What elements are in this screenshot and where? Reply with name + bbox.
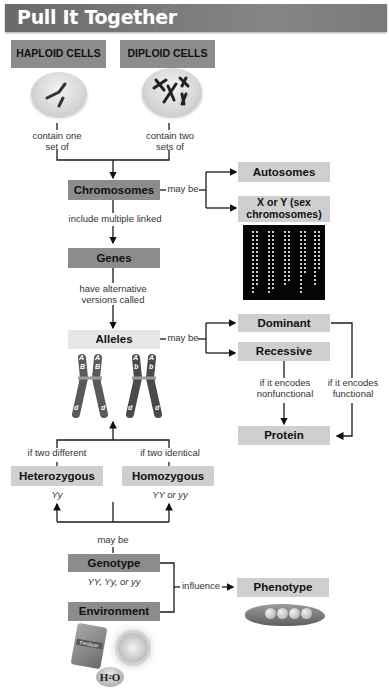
alleles-may-be-label: may be — [166, 333, 200, 344]
pea-icon — [301, 608, 312, 619]
recessive-label: Recessive — [256, 345, 312, 358]
diploid-relation-label: contain two sets of — [138, 131, 202, 153]
allele-tag: A — [149, 354, 154, 361]
haploid-cells-box: HAPLOID CELLS — [11, 40, 106, 68]
sun-icon — [118, 633, 148, 663]
allele-tag: B — [80, 363, 85, 370]
allele-tag: b — [134, 363, 138, 370]
phenotype-box: Phenotype — [237, 578, 329, 597]
include-linked-label: include multiple linked — [55, 214, 175, 225]
allele-tag: d — [155, 404, 159, 411]
water-o: O — [112, 671, 121, 683]
autosomes-box: Autosomes — [238, 162, 330, 182]
chromosomes-may-be-label: may be — [166, 184, 200, 195]
diploid-cell-dish-icon — [142, 68, 202, 116]
diploid-cells-label: DIPLOID CELLS — [128, 48, 208, 60]
water-h: H — [100, 671, 109, 683]
genes-label: Genes — [96, 252, 131, 265]
pea-icon — [265, 608, 276, 619]
protein-label: Protein — [264, 429, 304, 442]
heterozygous-chromosome-image: A A B B d d — [68, 352, 112, 420]
alleles-label: Alleles — [95, 333, 132, 346]
pea-icon — [277, 608, 288, 619]
karyotype-image — [243, 225, 325, 300]
zygosity-may-be-label: may be — [95, 535, 131, 546]
influence-label: influence — [180, 581, 222, 592]
genotype-examples: YY, Yy, or yy — [68, 577, 160, 588]
chromosomes-label: Chromosomes — [74, 184, 155, 197]
protein-box: Protein — [238, 426, 330, 445]
homozygous-chromosome-image: A A b b d d — [122, 352, 166, 420]
allele-tag: B — [95, 363, 100, 370]
allele-tag: A — [133, 354, 138, 361]
allele-tag: d — [101, 404, 105, 411]
fertilizer-bag-icon: Fertilizer — [71, 623, 108, 670]
dominant-box: Dominant — [238, 314, 330, 332]
autosomes-label: Autosomes — [253, 166, 316, 179]
genotype-label: Genotype — [87, 557, 140, 570]
homozygous-example: YY or yy — [140, 490, 200, 501]
genes-box: Genes — [68, 248, 160, 268]
genotype-box: Genotype — [68, 554, 160, 572]
homozygous-condition-label: if two identical — [132, 448, 208, 459]
water-icon: H2O — [96, 667, 124, 687]
genes-relation-text: have alternative versions called — [79, 283, 146, 305]
diploid-cells-box: DIPLOID CELLS — [120, 40, 215, 68]
allele-tag: A — [95, 354, 100, 361]
chromosomes-box: Chromosomes — [68, 180, 160, 200]
environment-box: Environment — [68, 602, 160, 621]
recessive-box: Recessive — [238, 342, 330, 361]
allele-tag: d — [128, 404, 132, 411]
sex-chromosomes-box: X or Y (sex chromosomes) — [238, 196, 330, 222]
functional-relation-label: if it encodes functional — [326, 378, 380, 400]
environment-label: Environment — [79, 605, 149, 618]
dominant-label: Dominant — [257, 317, 310, 330]
allele-tag: d — [74, 404, 78, 411]
heterozygous-example: Yy — [37, 490, 77, 501]
alleles-box: Alleles — [68, 330, 160, 349]
haploid-cells-label: HAPLOID CELLS — [16, 48, 101, 60]
nonfunctional-relation-label: if it encodes nonfunctional — [255, 378, 315, 400]
genes-relation-label: have alternative versions called — [70, 284, 156, 306]
heterozygous-label: Heterozygous — [19, 470, 95, 483]
heterozygous-condition-label: if two different — [18, 448, 96, 459]
phenotype-label: Phenotype — [254, 581, 313, 594]
allele-tag: b — [149, 363, 153, 370]
fertilizer-label: Fertilizer — [76, 639, 103, 649]
haploid-relation-label: contain one set of — [25, 131, 89, 153]
title-banner: Pull It Together — [5, 4, 387, 32]
heterozygous-box: Heterozygous — [11, 466, 103, 486]
homozygous-label: Homozygous — [132, 470, 204, 483]
pea-icon — [289, 608, 300, 619]
pea-pod-icon — [245, 604, 325, 626]
page-title: Pull It Together — [17, 6, 177, 28]
sex-chromosomes-label: X or Y (sex chromosomes) — [238, 197, 330, 220]
allele-tag: A — [79, 354, 84, 361]
haploid-cell-dish-icon — [31, 72, 87, 116]
homozygous-box: Homozygous — [122, 466, 214, 486]
